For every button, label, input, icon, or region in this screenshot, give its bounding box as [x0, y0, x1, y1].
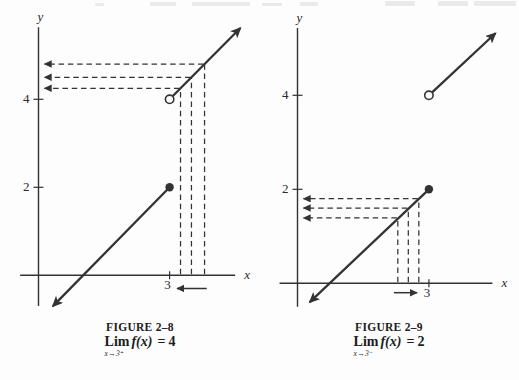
limit-subscript: x→3⁺	[105, 349, 176, 358]
function-text: f(x)	[131, 334, 152, 349]
figure-label: FIGURE 2–9	[306, 321, 472, 333]
y-tick-label: 4	[23, 91, 30, 106]
figure-2-9-plot: xy324	[280, 10, 508, 307]
y-axis-label: y	[295, 10, 303, 25]
closed-point	[165, 183, 173, 191]
open-point	[165, 95, 173, 103]
equals-sign: =	[406, 334, 414, 349]
closed-point	[425, 185, 433, 193]
limit-subscript: x→3⁻	[354, 349, 425, 358]
figure-label: FIGURE 2–8	[57, 321, 223, 333]
function-text: f(x)	[380, 334, 401, 349]
lower-branch	[310, 189, 429, 302]
y-axis-label: y	[36, 9, 44, 24]
equals-sign: =	[157, 334, 165, 349]
y-tick-label: 4	[282, 87, 289, 102]
open-point	[425, 91, 433, 99]
limit-expression: Limf(x)=4	[105, 334, 176, 349]
upper-branch	[429, 33, 496, 95]
limit-statement: Limf(x)=2 x→3⁻	[354, 334, 425, 358]
limit-value: 2	[417, 334, 424, 349]
y-tick-label: 2	[23, 179, 30, 194]
lim-text: Lim	[105, 334, 130, 349]
lim-text: Lim	[354, 334, 379, 349]
y-tick-label: 2	[282, 181, 289, 196]
x-tick-label: 3	[164, 277, 171, 292]
limit-expression: Limf(x)=2	[354, 334, 425, 349]
limit-statement: Limf(x)=4 x→3⁺	[105, 334, 176, 358]
scanned-textbook-figures: xy324xy324 FIGURE 2–8 Limf(x)=4 x→3⁺ FIG…	[0, 0, 519, 380]
figure-2-8-caption: FIGURE 2–8 Limf(x)=4 x→3⁺	[57, 321, 223, 360]
x-axis-label: x	[243, 267, 250, 282]
limit-value: 4	[168, 334, 175, 349]
figure-2-8-plot: xy324	[20, 9, 250, 306]
x-tick-label: 3	[424, 285, 431, 300]
figure-2-9-caption: FIGURE 2–9 Limf(x)=2 x→3⁻	[306, 321, 472, 360]
lower-branch	[53, 187, 170, 306]
x-axis-label: x	[500, 275, 507, 290]
